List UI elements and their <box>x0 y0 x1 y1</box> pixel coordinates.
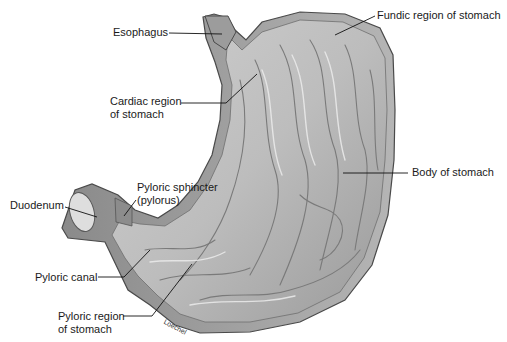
label-pyloric-canal: Pyloric canal <box>35 271 97 284</box>
label-body-of-stomach: Body of stomach <box>412 166 494 179</box>
label-cardiac-line2: of stomach <box>110 108 182 121</box>
stomach-mucosa <box>112 20 387 322</box>
label-fundic-region: Fundic region of stomach <box>377 9 501 22</box>
label-pyloric-region: Pyloric region of stomach <box>58 310 125 336</box>
label-pyloric-sphincter: Pyloric sphincter (pylorus) <box>137 181 218 207</box>
label-duodenum: Duodenum <box>10 199 64 212</box>
label-pyloric-sphincter-line2: (pylorus) <box>137 194 218 207</box>
label-pyloric-sphincter-line1: Pyloric sphincter <box>137 181 218 194</box>
label-cardiac-line1: Cardiac region <box>110 95 182 108</box>
label-pyloric-region-line2: of stomach <box>58 323 125 336</box>
label-pyloric-region-line1: Pyloric region <box>58 310 125 323</box>
label-esophagus: Esophagus <box>113 26 168 39</box>
label-cardiac-region: Cardiac region of stomach <box>110 95 182 121</box>
pyloric-sphincter-ring <box>115 198 132 226</box>
